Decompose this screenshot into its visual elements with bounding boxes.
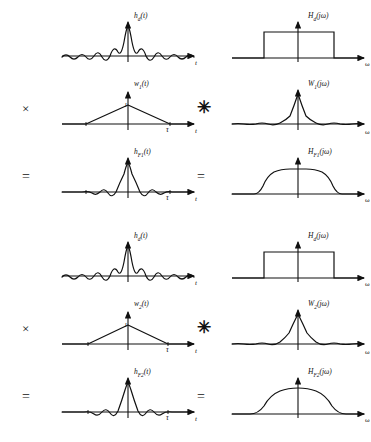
label-HF1-jw: HF1(jω) [308, 148, 332, 158]
row-ideal-response-2: hd(t) t Hd(jω) ω [0, 232, 371, 294]
axis-label-omega: ω [365, 281, 370, 288]
axis-label-t: t [195, 348, 197, 355]
axis-label-omega: ω [365, 129, 370, 136]
windowing-figure: hd(t) t Hd(jω) ω × ✳ [0, 0, 371, 442]
plot-w2-t: w2(t) 1 τ t [58, 300, 203, 362]
plot-w1-t: w1(t) 1 τ t [58, 80, 203, 142]
axis-label-omega: ω [365, 349, 370, 356]
operator-multiply: × [22, 322, 29, 335]
plot-hd-t-1: hd(t) t [58, 12, 203, 74]
label-amplitude-one: 1 [124, 322, 127, 329]
smoothed-brickwall-svg [228, 148, 371, 210]
truncated-sinc-svg [58, 368, 203, 430]
block-window-2: hd(t) t Hd(jω) ω × ✳ [0, 228, 371, 428]
label-W1-jw: W1(jω) [308, 80, 329, 90]
smoothed-brickwall-svg [228, 368, 371, 430]
axis-label-t: t [195, 60, 197, 67]
label-tau: τ [166, 414, 169, 422]
plot-HF2-jw: HF2(jω) ω [228, 368, 371, 430]
row-result-2: = = hF2(t) τ t [0, 368, 371, 430]
label-hd-t: hd(t) [134, 12, 148, 22]
window-plot-svg [58, 80, 203, 142]
window-spectrum-svg [228, 80, 371, 142]
sinc-plot-svg [58, 232, 203, 294]
operator-equals-left: = [22, 390, 30, 404]
label-tau: τ [166, 126, 169, 134]
operator-multiply: × [22, 102, 29, 115]
axis-label-omega: ω [365, 417, 370, 424]
label-hF2-t: hF2(t) [134, 368, 151, 378]
plot-hF1-t: hF1(t) τ t [58, 148, 203, 210]
label-tau: τ [166, 194, 169, 202]
row-ideal-response-1: hd(t) t Hd(jω) ω [0, 12, 371, 74]
label-W2-jw: W2(jω) [308, 300, 329, 310]
label-amplitude-one: 1 [124, 102, 127, 109]
row-window-2: × ✳ w2(t) 1 τ t [0, 300, 371, 362]
label-Hd-jw: Hd(jω) [308, 232, 329, 242]
operator-equals-left: = [22, 170, 30, 184]
row-result-1: = = hF1(t) τ t [0, 148, 371, 210]
axis-label-t: t [195, 128, 197, 135]
axis-label-t: t [195, 196, 197, 203]
brickwall-plot-svg [228, 232, 371, 294]
label-w2-t: w2(t) [134, 300, 149, 310]
row-window-1: × ✳ w1(t) 1 τ t [0, 80, 371, 142]
axis-label-t: t [195, 416, 197, 423]
label-HF2-jw: HF2(jω) [308, 368, 332, 378]
window-plot-svg [58, 300, 203, 362]
label-Hd-jw: Hd(jω) [308, 12, 329, 22]
block-window-1: hd(t) t Hd(jω) ω × ✳ [0, 8, 371, 208]
plot-hF2-t: hF2(t) τ t [58, 368, 203, 430]
plot-HF1-jw: HF1(jω) ω [228, 148, 371, 210]
window-spectrum-svg [228, 300, 371, 362]
label-tau: τ [166, 346, 169, 354]
plot-W2-jw: W2(jω) ω [228, 300, 371, 362]
label-hF1-t: hF1(t) [134, 148, 151, 158]
plot-Hd-jw-2: Hd(jω) ω [228, 232, 371, 294]
label-hd-t: hd(t) [134, 232, 148, 242]
truncated-sinc-svg [58, 148, 203, 210]
plot-hd-t-2: hd(t) t [58, 232, 203, 294]
axis-label-omega: ω [365, 61, 370, 68]
axis-label-omega: ω [365, 197, 370, 204]
sinc-plot-svg [58, 12, 203, 74]
axis-label-t: t [195, 280, 197, 287]
label-w1-t: w1(t) [134, 80, 149, 90]
brickwall-plot-svg [228, 12, 371, 74]
plot-Hd-jw-1: Hd(jω) ω [228, 12, 371, 74]
plot-W1-jw: W1(jω) ω [228, 80, 371, 142]
